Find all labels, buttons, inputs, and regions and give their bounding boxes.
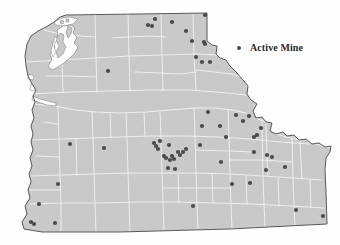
mine-dot bbox=[248, 181, 252, 185]
mine-dot bbox=[153, 17, 157, 21]
mine-dot bbox=[194, 55, 198, 59]
mine-dot bbox=[206, 110, 210, 114]
mine-dot bbox=[200, 124, 204, 128]
mine-dot bbox=[146, 23, 150, 27]
mine-dot bbox=[198, 143, 202, 147]
mine-dot bbox=[218, 124, 222, 128]
mine-dot bbox=[191, 204, 195, 208]
mine-dot bbox=[294, 208, 298, 212]
county-border bbox=[208, 30, 222, 38]
mine-dot bbox=[283, 165, 287, 169]
mine-dot bbox=[181, 150, 185, 154]
mine-dot bbox=[166, 166, 170, 170]
mine-dot bbox=[234, 113, 238, 117]
mine-dot bbox=[184, 29, 188, 33]
mine-dot bbox=[170, 20, 174, 24]
mine-dot bbox=[158, 139, 162, 143]
mine-dot bbox=[106, 69, 110, 73]
mine-dot bbox=[156, 147, 160, 151]
mine-dot bbox=[252, 150, 256, 154]
mine-dot bbox=[102, 146, 106, 150]
mine-dot bbox=[230, 182, 234, 186]
mine-dot bbox=[178, 153, 182, 157]
mine-dot bbox=[200, 60, 204, 64]
mine-dot bbox=[168, 158, 172, 162]
mine-dot bbox=[241, 119, 245, 123]
mine-dot bbox=[173, 167, 177, 171]
mine-dot bbox=[167, 143, 171, 147]
mine-dot bbox=[37, 202, 41, 206]
mine-dot bbox=[32, 222, 36, 226]
mine-dot bbox=[190, 39, 194, 43]
mine-dot bbox=[150, 24, 154, 28]
mine-dot bbox=[224, 135, 228, 139]
active-mine-map-figure: Active Mine bbox=[0, 0, 340, 245]
mine-dot bbox=[247, 114, 251, 118]
mine-dot bbox=[203, 13, 207, 17]
mine-dot bbox=[68, 142, 72, 146]
map-canvas bbox=[0, 0, 340, 245]
mine-dot bbox=[203, 42, 207, 46]
mine-dot bbox=[255, 133, 259, 137]
mine-dot bbox=[270, 155, 274, 159]
mine-dot bbox=[219, 160, 223, 164]
mine-dot bbox=[172, 157, 176, 161]
mine-dot bbox=[265, 153, 269, 157]
mine-dot bbox=[164, 156, 168, 160]
mine-dot bbox=[208, 60, 212, 64]
mine-dot bbox=[56, 182, 60, 186]
mine-dot bbox=[184, 147, 188, 151]
mine-dot bbox=[53, 221, 57, 225]
mine-dot bbox=[264, 168, 268, 172]
mine-dot bbox=[321, 214, 325, 218]
mine-dot bbox=[259, 126, 263, 130]
